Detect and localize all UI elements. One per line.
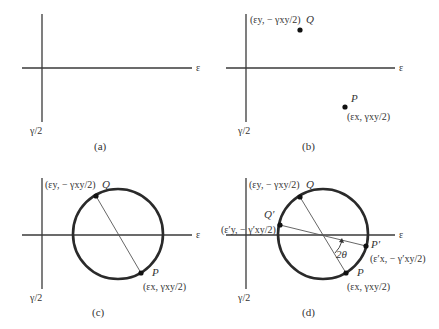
point-p-prime	[363, 243, 368, 248]
epsilon-axis-label: ε	[399, 62, 403, 73]
caption-c: (c)	[92, 306, 105, 319]
epsilon-axis-label: ε	[399, 229, 403, 240]
caption-b: (b)	[302, 140, 315, 153]
point-p-label: P	[350, 92, 358, 104]
point-q-prime-coord-label: (ε′y, − γ′xy/2)	[221, 224, 276, 236]
point-q-coord-label: (εy, − γxy/2)	[45, 179, 96, 191]
panel-b: ε γ/2 (εy, − γxy/2) Q P (εx, γxy/2) (b)	[226, 13, 403, 153]
gamma-axis-label: γ/2	[29, 125, 42, 136]
point-q-label: Q	[102, 178, 110, 190]
gamma-axis-label: γ/2	[237, 125, 250, 136]
gamma-axis-label: γ/2	[29, 292, 42, 303]
point-p-coord-label: (εx, γxy/2)	[347, 111, 390, 123]
point-p-prime-coord-label: (ε′x, − γ′xy/2)	[370, 253, 426, 265]
point-p	[343, 270, 348, 275]
point-p-label: P	[151, 266, 159, 278]
point-p-label: P	[356, 266, 364, 278]
point-q	[93, 193, 98, 198]
point-q	[297, 194, 302, 199]
epsilon-axis-label: ε	[196, 62, 200, 73]
caption-d: (d)	[302, 306, 315, 319]
point-q	[297, 27, 302, 32]
point-q-prime	[277, 222, 282, 227]
point-q-prime-label: Q′	[264, 208, 275, 220]
point-q-coord-label: (εy, − γxy/2)	[249, 179, 300, 191]
point-p-coord-label: (εx, γxy/2)	[347, 281, 390, 293]
point-p-prime-label: P′	[370, 238, 381, 250]
panel-c: ε γ/2 (εy, − γxy/2) Q P (εx, γxy/2) (c)	[22, 178, 200, 319]
point-q-label: Q	[306, 13, 314, 25]
point-p-coord-label: (εx, γxy/2)	[143, 281, 186, 293]
point-p	[342, 104, 347, 109]
mohr-circle-strain-diagram: ε γ/2 (a) ε γ/2 (εy, − γxy/2) Q P (εx, γ…	[0, 0, 439, 329]
point-q-coord-label: (εy, − γxy/2)	[250, 14, 301, 26]
mohr-circle	[278, 189, 368, 279]
gamma-axis-label: γ/2	[237, 292, 250, 303]
angle-label: 2θ	[336, 248, 348, 260]
panel-a: ε γ/2 (a)	[22, 14, 200, 153]
epsilon-axis-label: ε	[196, 229, 200, 240]
caption-a: (a)	[94, 140, 107, 153]
point-q-label: Q	[306, 178, 314, 190]
panel-d: ε γ/2 2θ (εy, − γxy/2) Q Q′ (ε′y, − γ′xy…	[221, 178, 426, 319]
point-p	[138, 270, 143, 275]
